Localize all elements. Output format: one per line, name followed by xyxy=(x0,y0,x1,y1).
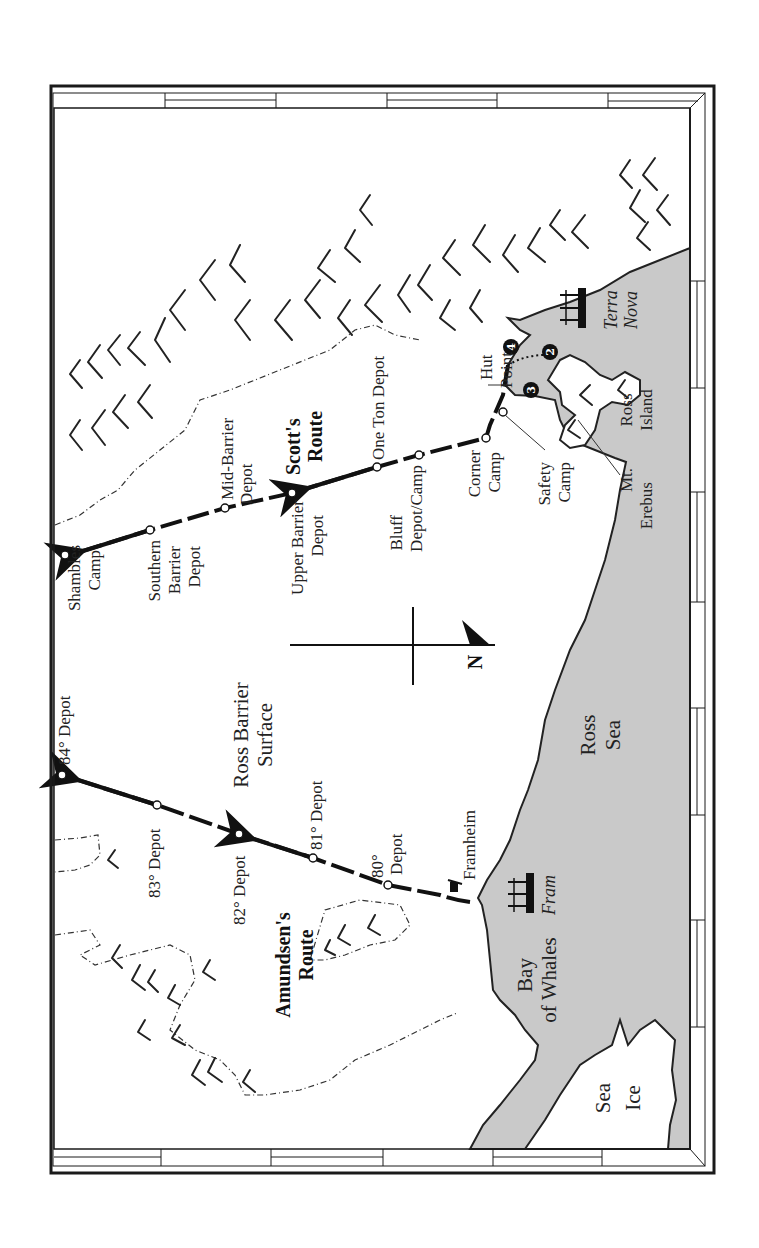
depot-82-marker xyxy=(235,830,243,838)
label-shambles-camp-1: Shambles xyxy=(65,545,84,611)
label-southern-3: Depot xyxy=(185,546,204,588)
label-depot-82: 82° Depot xyxy=(230,855,249,925)
label-ross-barrier-1: Ross Barrier xyxy=(229,682,253,788)
label-ross-island-2: Island xyxy=(637,389,656,431)
label-corner-1: Corner xyxy=(465,450,484,498)
label-hut-2: Point xyxy=(497,352,516,388)
marker-4: 4 xyxy=(505,343,518,351)
depot-83-marker xyxy=(153,801,161,809)
label-upper-barrier-1: Upper Barrier xyxy=(288,500,307,595)
label-bluff-2: Depot/Camp xyxy=(407,465,426,552)
label-one-ton-depot: One Ton Depot xyxy=(369,355,388,460)
label-ross-island-1: Ross xyxy=(617,393,636,426)
depot-84-marker xyxy=(58,771,66,779)
label-terra-nova-1: Terra xyxy=(601,290,621,329)
compass-north-arrow: N xyxy=(290,607,495,685)
label-depot-80-2: Depot xyxy=(387,833,406,875)
marker-3: 3 xyxy=(525,386,538,394)
safety-camp-marker xyxy=(499,408,507,416)
framheim-hut-icon xyxy=(448,880,462,892)
label-ross-sea-1: Ross xyxy=(576,715,600,756)
label-safety-1: Safety xyxy=(535,462,554,506)
label-mid-barrier-1: Mid-Barrier xyxy=(218,418,237,500)
label-southern-2: Barrier xyxy=(165,546,184,594)
label-mid-barrier-2: Depot xyxy=(237,463,256,505)
label-bay-of-whales-1: Bay xyxy=(513,958,537,992)
label-sea-ice-1: Sea xyxy=(591,1082,615,1113)
label-shambles-camp-2: Camp xyxy=(85,550,104,591)
label-fram: Fram xyxy=(539,875,559,916)
label-amundsen-route-1: Amundsen's xyxy=(272,912,294,1018)
label-depot-81: 81° Depot xyxy=(307,780,326,850)
label-bay-of-whales-2: of Whales xyxy=(537,937,561,1022)
label-hut-1: Hut xyxy=(477,354,496,380)
bluff-depot-marker xyxy=(415,451,423,459)
label-safety-2: Camp xyxy=(555,462,574,503)
label-southern-1: Southern xyxy=(145,540,164,602)
upper-barrier-depot-marker xyxy=(288,489,296,497)
antarctic-expedition-map: 4 2 3 xyxy=(0,0,759,1248)
label-depot-80-1: 80° xyxy=(368,854,387,878)
amundsen-route xyxy=(58,771,470,902)
sea-area xyxy=(470,108,690,1149)
compass-n-label: N xyxy=(464,654,486,669)
marker-2: 2 xyxy=(544,348,557,356)
label-corner-2: Camp xyxy=(485,452,504,493)
label-ross-sea-2: Sea xyxy=(601,719,625,750)
label-scott-route-1: Scott's xyxy=(282,418,304,475)
depot-80-marker xyxy=(384,881,392,889)
corner-camp-marker xyxy=(482,434,490,442)
label-terra-nova-2: Nova xyxy=(621,291,641,330)
depot-81-marker xyxy=(309,854,317,862)
label-erebus-2: Erebus xyxy=(637,482,656,529)
southern-barrier-depot-marker xyxy=(146,526,154,534)
label-bluff-1: Bluff xyxy=(387,515,406,551)
label-sea-ice-2: Ice xyxy=(621,1085,645,1111)
label-depot-83: 83° Depot xyxy=(145,828,164,898)
label-scott-route-2: Route xyxy=(304,411,326,462)
label-framheim: Framheim xyxy=(460,810,479,880)
mid-barrier-depot-marker xyxy=(221,504,229,512)
label-upper-barrier-2: Depot xyxy=(308,515,327,557)
label-amundsen-route-2: Route xyxy=(295,929,317,980)
label-ross-barrier-2: Surface xyxy=(253,703,277,767)
label-erebus-1: Mt. xyxy=(617,468,636,492)
label-depot-84: 84° Depot xyxy=(55,695,74,765)
one-ton-depot-marker xyxy=(373,463,381,471)
